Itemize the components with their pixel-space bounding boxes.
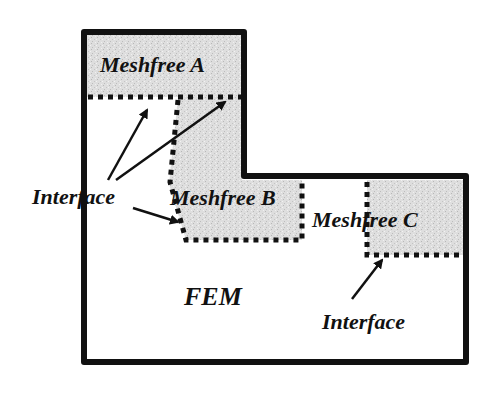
arrow-to-interface-b — [133, 208, 178, 222]
arrow-to-interface-a-left — [108, 110, 147, 180]
meshfree-a-label: Meshfree A — [99, 52, 205, 77]
meshfree-c-label: Meshfree C — [311, 207, 418, 232]
fem-label: FEM — [183, 282, 243, 311]
meshfree-b-region — [169, 97, 302, 240]
arrow-to-interface-c — [352, 260, 382, 299]
meshfree-b-label: Meshfree B — [169, 185, 276, 210]
domain-decomposition-diagram: Meshfree A Meshfree B Meshfree C FEM Int… — [0, 0, 492, 393]
interface-label-left: Interface — [31, 184, 115, 209]
interface-label-right: Interface — [321, 309, 405, 334]
